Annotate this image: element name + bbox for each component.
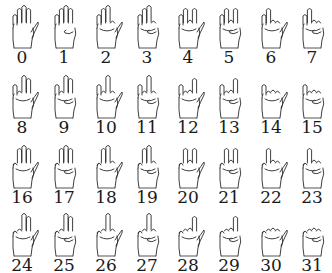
gesture-cell: 21 bbox=[208, 142, 250, 210]
gesture-number-label: 17 bbox=[43, 187, 85, 207]
gesture-cell: 18 bbox=[85, 142, 127, 210]
hand-icon bbox=[88, 210, 124, 258]
gesture-number-label: 30 bbox=[250, 255, 292, 273]
hand-icon bbox=[253, 210, 289, 258]
gesture-cell: 15 bbox=[291, 72, 332, 140]
hand-icon bbox=[4, 72, 40, 120]
gesture-number-label: 3 bbox=[126, 47, 168, 67]
gesture-number-label: 29 bbox=[208, 255, 250, 273]
gesture-cell: 20 bbox=[167, 142, 209, 210]
hand-icon bbox=[253, 72, 289, 120]
gesture-cell: 29 bbox=[208, 210, 250, 273]
gesture-cell: 4 bbox=[167, 2, 209, 70]
gesture-cell: 6 bbox=[250, 2, 292, 70]
hand-icon bbox=[129, 210, 165, 258]
hand-icon bbox=[211, 142, 247, 190]
gesture-cell: 17 bbox=[43, 142, 85, 210]
hand-icon bbox=[170, 142, 206, 190]
gesture-cell: 14 bbox=[250, 72, 292, 140]
gesture-grid: 0123456789101112131415161718192021222324… bbox=[0, 0, 332, 273]
gesture-cell: 31 bbox=[291, 210, 332, 273]
gesture-cell: 1 bbox=[43, 2, 85, 70]
gesture-cell: 11 bbox=[126, 72, 168, 140]
hand-icon bbox=[4, 2, 40, 50]
hand-icon bbox=[170, 72, 206, 120]
gesture-number-label: 24 bbox=[1, 255, 43, 273]
gesture-number-label: 20 bbox=[167, 187, 209, 207]
gesture-cell: 28 bbox=[167, 210, 209, 273]
gesture-cell: 9 bbox=[43, 72, 85, 140]
hand-icon bbox=[129, 72, 165, 120]
gesture-cell: 26 bbox=[85, 210, 127, 273]
gesture-cell: 2 bbox=[85, 2, 127, 70]
gesture-number-label: 13 bbox=[208, 117, 250, 137]
hand-icon bbox=[129, 142, 165, 190]
gesture-number-label: 15 bbox=[291, 117, 332, 137]
gesture-cell: 27 bbox=[126, 210, 168, 273]
gesture-number-label: 26 bbox=[85, 255, 127, 273]
gesture-cell: 12 bbox=[167, 72, 209, 140]
hand-icon bbox=[294, 142, 330, 190]
gesture-cell: 10 bbox=[85, 72, 127, 140]
hand-icon bbox=[4, 210, 40, 258]
gesture-number-label: 11 bbox=[126, 117, 168, 137]
gesture-cell: 19 bbox=[126, 142, 168, 210]
gesture-cell: 24 bbox=[1, 210, 43, 273]
gesture-number-label: 8 bbox=[1, 117, 43, 137]
hand-icon bbox=[294, 210, 330, 258]
gesture-number-label: 10 bbox=[85, 117, 127, 137]
gesture-number-label: 28 bbox=[167, 255, 209, 273]
hand-icon bbox=[4, 142, 40, 190]
hand-icon bbox=[46, 210, 82, 258]
gesture-cell: 23 bbox=[291, 142, 332, 210]
hand-icon bbox=[170, 210, 206, 258]
hand-icon bbox=[253, 2, 289, 50]
gesture-number-label: 21 bbox=[208, 187, 250, 207]
hand-icon bbox=[129, 2, 165, 50]
gesture-number-label: 25 bbox=[43, 255, 85, 273]
gesture-cell: 30 bbox=[250, 210, 292, 273]
gesture-number-label: 16 bbox=[1, 187, 43, 207]
gesture-cell: 22 bbox=[250, 142, 292, 210]
hand-icon bbox=[211, 2, 247, 50]
gesture-number-label: 14 bbox=[250, 117, 292, 137]
hand-icon bbox=[88, 2, 124, 50]
gesture-number-label: 5 bbox=[208, 47, 250, 67]
gesture-cell: 3 bbox=[126, 2, 168, 70]
gesture-cell: 7 bbox=[291, 2, 332, 70]
gesture-number-label: 0 bbox=[1, 47, 43, 67]
hand-icon bbox=[253, 142, 289, 190]
gesture-number-label: 19 bbox=[126, 187, 168, 207]
gesture-number-label: 4 bbox=[167, 47, 209, 67]
gesture-number-label: 23 bbox=[291, 187, 332, 207]
hand-icon bbox=[294, 72, 330, 120]
gesture-number-label: 12 bbox=[167, 117, 209, 137]
hand-icon bbox=[170, 2, 206, 50]
gesture-number-label: 6 bbox=[250, 47, 292, 67]
gesture-cell: 13 bbox=[208, 72, 250, 140]
hand-icon bbox=[46, 2, 82, 50]
hand-icon bbox=[211, 210, 247, 258]
gesture-number-label: 22 bbox=[250, 187, 292, 207]
gesture-number-label: 9 bbox=[43, 117, 85, 137]
gesture-number-label: 31 bbox=[291, 255, 332, 273]
gesture-cell: 8 bbox=[1, 72, 43, 140]
hand-icon bbox=[88, 72, 124, 120]
gesture-number-label: 2 bbox=[85, 47, 127, 67]
hand-icon bbox=[88, 142, 124, 190]
gesture-number-label: 7 bbox=[291, 47, 332, 67]
gesture-number-label: 1 bbox=[43, 47, 85, 67]
gesture-number-label: 27 bbox=[126, 255, 168, 273]
gesture-cell: 16 bbox=[1, 142, 43, 210]
gesture-number-label: 18 bbox=[85, 187, 127, 207]
hand-icon bbox=[46, 142, 82, 190]
hand-icon bbox=[294, 2, 330, 50]
gesture-cell: 25 bbox=[43, 210, 85, 273]
hand-icon bbox=[211, 72, 247, 120]
hand-icon bbox=[46, 72, 82, 120]
gesture-cell: 0 bbox=[1, 2, 43, 70]
gesture-cell: 5 bbox=[208, 2, 250, 70]
